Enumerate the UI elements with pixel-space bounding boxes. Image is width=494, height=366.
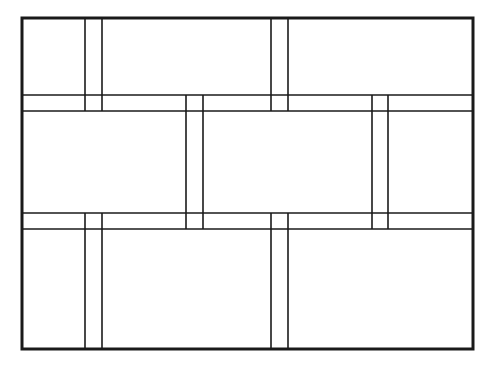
outer-frame (22, 18, 473, 349)
brick-grid-diagram (0, 0, 494, 366)
grid-lines (22, 18, 473, 349)
